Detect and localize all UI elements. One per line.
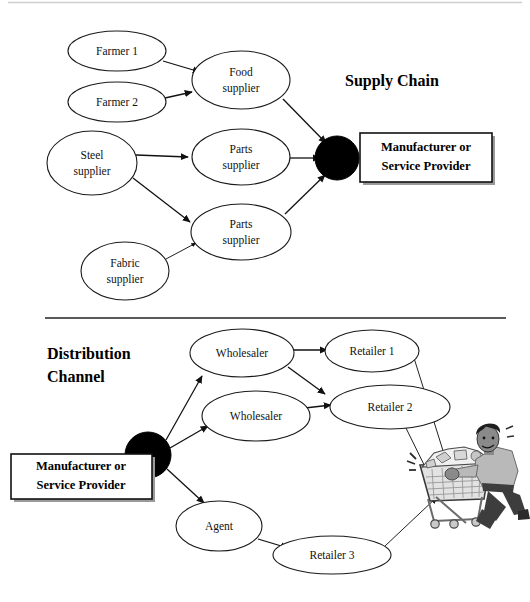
edge-manufacturer-to-agent	[167, 469, 204, 503]
node-farmer-1[interactable]: Farmer 1	[68, 31, 166, 71]
manufacturer-distribution-label-line2: Service Provider	[37, 478, 126, 492]
distribution-channel-title-line2: Channel	[47, 368, 105, 385]
node-manufacturer-distribution[interactable]: Manufacturer or Service Provider	[11, 432, 171, 502]
node-retailer-2-label: Retailer 2	[367, 401, 412, 413]
node-retailer-2[interactable]: Retailer 2	[330, 385, 450, 429]
node-food-supplier-label-line2: supplier	[222, 82, 259, 95]
node-fabric-supplier-label-line2: supplier	[106, 273, 143, 286]
node-parts-supplier-1-shape	[192, 129, 290, 185]
node-fabric-supplier-shape	[81, 242, 169, 300]
supply-chain-distribution-diagram: Farmer 1 Farmer 2 Steel supplier Fabric …	[0, 0, 530, 602]
node-retailer-3-label: Retailer 3	[309, 549, 354, 561]
node-parts-supplier-1[interactable]: Parts supplier	[192, 129, 290, 185]
node-agent-label: Agent	[205, 520, 234, 533]
edge-steel-supplier-to-parts-supplier-2	[133, 178, 190, 222]
node-steel-supplier-shape	[47, 131, 137, 195]
node-wholesaler-1[interactable]: Wholesaler	[190, 329, 294, 377]
edge-wholesaler-1-to-retailer-2	[288, 367, 325, 394]
node-parts-supplier-2-shape	[191, 204, 291, 260]
manufacturer-supply-hub-dot	[315, 136, 359, 180]
shopper-figure	[445, 423, 530, 529]
node-steel-supplier[interactable]: Steel supplier	[47, 131, 137, 195]
node-wholesaler-2-label: Wholesaler	[230, 410, 283, 422]
node-parts-supplier-1-label-line1: Parts	[230, 143, 254, 155]
node-farmer-2-label: Farmer 2	[96, 96, 138, 108]
supply-chain-section: Farmer 1 Farmer 2 Steel supplier Fabric …	[47, 31, 495, 300]
node-fabric-supplier-label-line1: Fabric	[110, 257, 139, 269]
node-parts-supplier-2-label-line1: Parts	[230, 218, 254, 230]
manufacturer-distribution-label-line1: Manufacturer or	[36, 459, 127, 473]
node-parts-supplier-1-label-line2: supplier	[222, 159, 259, 172]
manufacturer-supply-label-line1: Manufacturer or	[381, 140, 472, 154]
edge-fabric-supplier-to-parts-supplier-2	[166, 243, 196, 259]
diagram-canvas: Farmer 1 Farmer 2 Steel supplier Fabric …	[0, 0, 530, 602]
supply-chain-title: Supply Chain	[345, 72, 439, 90]
manufacturer-supply-label-line2: Service Provider	[382, 159, 471, 173]
edge-wholesaler-2-to-retailer-2	[305, 405, 331, 408]
node-food-supplier-label-line1: Food	[229, 66, 253, 78]
edge-manufacturer-to-wholesaler-1	[166, 376, 202, 440]
edge-steel-supplier-to-parts-supplier-1	[136, 155, 188, 157]
node-steel-supplier-label-line2: supplier	[73, 165, 110, 178]
shopper-motion-marks	[506, 426, 514, 437]
edge-parts-supplier-2-to-manufacturer	[285, 175, 325, 214]
node-farmer-1-label: Farmer 1	[96, 45, 138, 57]
node-food-supplier-shape	[192, 51, 290, 109]
edge-farmer2-to-food-supplier	[165, 92, 192, 98]
shopper-with-cart-illustration	[407, 423, 530, 529]
node-parts-supplier-2[interactable]: Parts supplier	[191, 204, 291, 260]
node-retailer-3[interactable]: Retailer 3	[273, 536, 391, 574]
node-wholesaler-2[interactable]: Wholesaler	[202, 391, 310, 441]
distribution-channel-section: Wholesaler Wholesaler Retailer 1 Retaile…	[11, 329, 530, 574]
distribution-channel-title-line1: Distribution	[47, 345, 131, 362]
edge-manufacturer-to-wholesaler-2	[170, 426, 208, 448]
node-wholesaler-1-label: Wholesaler	[216, 347, 269, 359]
node-manufacturer-supply-chain[interactable]: Manufacturer or Service Provider	[315, 133, 495, 185]
node-steel-supplier-label-line1: Steel	[81, 149, 104, 161]
node-retailer-1-label: Retailer 1	[349, 345, 394, 357]
shopper-hand	[445, 468, 459, 480]
node-parts-supplier-2-label-line2: supplier	[222, 234, 259, 247]
node-food-supplier[interactable]: Food supplier	[192, 51, 290, 109]
cart-motion-lines	[407, 453, 416, 470]
node-retailer-1[interactable]: Retailer 1	[325, 330, 419, 372]
node-fabric-supplier[interactable]: Fabric supplier	[81, 242, 169, 300]
node-farmer-2[interactable]: Farmer 2	[68, 82, 166, 122]
shopper-front-shoe	[518, 509, 530, 520]
node-agent[interactable]: Agent	[176, 501, 262, 551]
edge-food-supplier-to-manufacturer	[283, 99, 326, 143]
